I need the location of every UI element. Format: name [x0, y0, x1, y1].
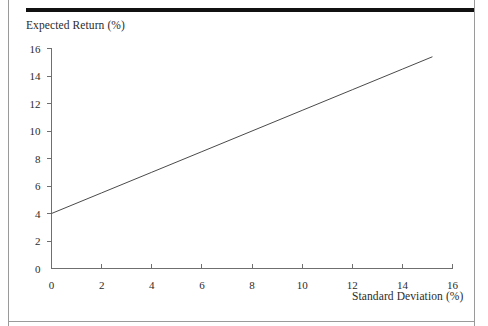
- x-tick-label: 4: [149, 279, 155, 291]
- y-tick-label: 0: [35, 263, 41, 275]
- x-tick-label: 14: [397, 279, 409, 291]
- series-line: [52, 57, 433, 214]
- x-tick-label: 2: [99, 279, 105, 291]
- tick-label-group: 02468101214160246810121416: [30, 43, 459, 291]
- x-tick-label: 10: [297, 279, 309, 291]
- line-chart-plot: 02468101214160246810121416: [0, 0, 488, 326]
- y-tick-label: 16: [30, 43, 42, 55]
- y-tick-label: 4: [35, 208, 41, 220]
- x-axis-group: [52, 264, 453, 269]
- figure-page: Expected Return (%) Standard Deviation (…: [0, 0, 488, 326]
- y-tick-label: 2: [35, 235, 41, 247]
- x-tick-label: 8: [249, 279, 255, 291]
- y-axis-group: [47, 49, 52, 269]
- x-tick-label: 12: [347, 279, 358, 291]
- y-tick-label: 14: [30, 70, 42, 82]
- x-tick-label: 16: [447, 279, 459, 291]
- chart-svg: 02468101214160246810121416: [0, 0, 488, 326]
- x-tick-label: 6: [199, 279, 205, 291]
- y-tick-label: 8: [35, 153, 41, 165]
- y-tick-label: 6: [35, 180, 41, 192]
- y-tick-label: 12: [30, 98, 41, 110]
- series-group: [52, 57, 433, 214]
- y-tick-label: 10: [30, 125, 42, 137]
- x-tick-label: 0: [49, 279, 55, 291]
